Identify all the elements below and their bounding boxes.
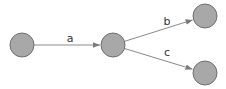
edge-label-b: b [164, 15, 171, 28]
edge-label-c: c [164, 46, 170, 59]
node-n2 [101, 33, 125, 57]
edge-label-a: a [67, 32, 74, 45]
graph-diagram: abc [0, 0, 226, 89]
node-n4 [193, 61, 217, 85]
node-n1 [10, 33, 34, 57]
edge-c [124, 48, 192, 69]
node-n3 [193, 4, 217, 28]
edge-b [124, 20, 192, 41]
